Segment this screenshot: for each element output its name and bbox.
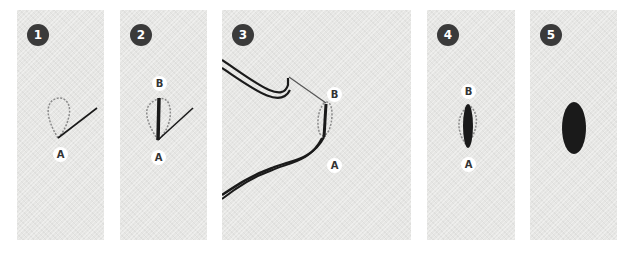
finished-stitch-illustration [530, 10, 617, 240]
finished-oval-stitch [562, 102, 586, 154]
needle-icon [289, 77, 326, 103]
stitch-illustration [120, 10, 207, 240]
step-1-panel: 1 A [17, 10, 104, 240]
step-4-panel: 4 B A [427, 10, 515, 240]
point-a-label: A [461, 157, 476, 172]
thread-illustration [222, 10, 411, 240]
straight-stitch [158, 98, 159, 140]
point-a-label: A [53, 147, 68, 162]
step-2-panel: 2 B A [120, 10, 207, 240]
point-b-label: B [327, 87, 342, 102]
point-a-label: A [327, 158, 342, 173]
tail-thread [222, 137, 324, 195]
step-3-panel: 3 B A [222, 10, 411, 240]
step-5-panel: 5 [530, 10, 617, 240]
needle-icon [158, 108, 193, 140]
loop-illustration [17, 10, 104, 240]
point-a-label: A [151, 150, 166, 165]
working-thread [222, 60, 288, 92]
filled-stitch [463, 104, 473, 148]
needle-icon [58, 108, 97, 138]
point-b-label: B [461, 84, 476, 99]
stitch-illustration [427, 10, 515, 240]
point-b-label: B [152, 76, 167, 91]
